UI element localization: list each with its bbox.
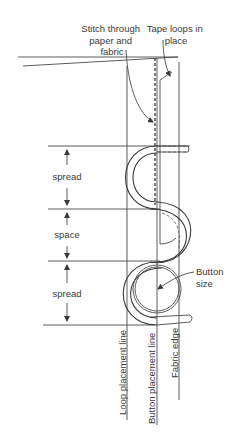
tape-tab-top [157,146,189,152]
tape-loop-upper [126,146,158,209]
button-placement-label: Button placement line [146,333,157,424]
tape-loop-diagram: Stitch through paper and fabric Tape loo… [0,0,238,438]
stitch-leader-arrow [126,50,153,122]
spread-label-2: spread [52,288,81,299]
space-label: space [54,229,79,240]
spread-label-1: spread [52,171,81,182]
stitch-label: Stitch through paper and fabric [81,23,142,57]
tape-loops-label: Tape loops in place [147,23,206,46]
paper-top-edges [18,57,178,66]
loop-placement-label: Loop placement line [117,330,128,415]
button-size-label: Button size [196,266,226,289]
fabric-edge-label: Fabric edge [169,328,180,378]
tape-top-fold [160,80,176,244]
tape-loop-middle [150,202,191,263]
